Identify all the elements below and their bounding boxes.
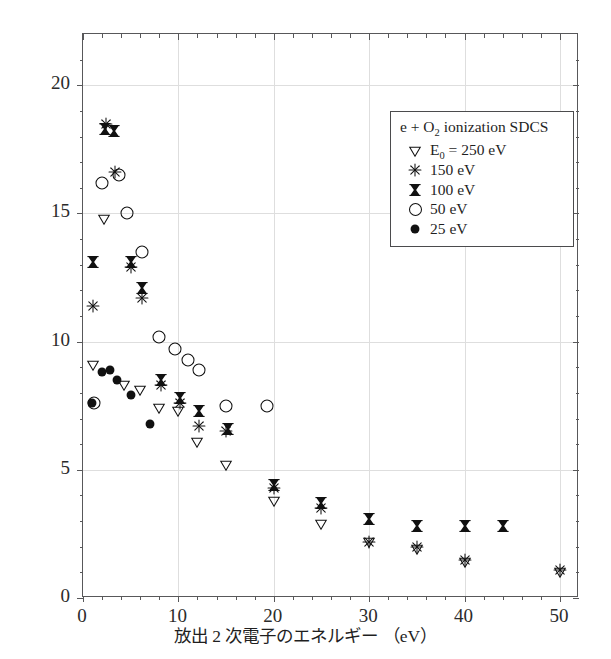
x-axis-minor-tick bbox=[102, 34, 103, 38]
y-axis-minor-tick bbox=[80, 239, 84, 240]
x-axis-minor-tick bbox=[159, 596, 160, 600]
data-point-hourglass bbox=[86, 255, 100, 269]
x-axis-minor-tick bbox=[331, 34, 332, 38]
data-point-open-circle bbox=[219, 398, 234, 413]
x-axis-minor-tick bbox=[445, 34, 446, 38]
y-axis-minor-tick bbox=[80, 111, 84, 112]
x-axis-minor-tick bbox=[236, 596, 237, 600]
data-point-open-down-triangle bbox=[362, 535, 376, 549]
y-axis-minor-tick bbox=[80, 162, 84, 163]
data-point-hourglass bbox=[192, 404, 206, 418]
y-axis-tick bbox=[573, 470, 579, 471]
x-axis-minor-tick bbox=[255, 34, 256, 38]
data-point-open-circle bbox=[260, 398, 275, 413]
y-axis-minor-tick bbox=[576, 137, 580, 138]
data-point-hourglass bbox=[267, 478, 281, 492]
x-axis-minor-tick bbox=[350, 596, 351, 600]
x-axis-tick bbox=[465, 596, 466, 602]
x-axis-minor-tick bbox=[541, 596, 542, 600]
data-point-hourglass bbox=[496, 519, 510, 533]
data-point-open-down-triangle bbox=[410, 542, 424, 556]
x-axis-minor-tick bbox=[503, 596, 504, 600]
y-axis-minor-tick bbox=[576, 495, 580, 496]
data-point-asterisk bbox=[86, 299, 100, 313]
legend-row: 25 eV bbox=[400, 219, 565, 239]
y-axis-minor-tick bbox=[576, 239, 580, 240]
x-axis-minor-tick bbox=[255, 596, 256, 600]
x-axis-minor-tick bbox=[407, 34, 408, 38]
y-axis-minor-tick bbox=[80, 60, 84, 61]
x-axis-minor-tick bbox=[102, 596, 103, 600]
legend-symbol-open-circle bbox=[400, 202, 430, 217]
y-axis-minor-tick bbox=[576, 419, 580, 420]
x-axis-tick-label: 30 bbox=[359, 605, 378, 627]
x-axis-tick bbox=[560, 34, 561, 40]
x-axis-tick-label: 20 bbox=[263, 605, 282, 627]
data-point-hourglass bbox=[173, 391, 187, 405]
y-axis-minor-tick bbox=[576, 367, 580, 368]
y-axis-minor-tick bbox=[80, 188, 84, 189]
x-axis-minor-tick bbox=[121, 34, 122, 38]
data-point-hourglass bbox=[362, 512, 376, 526]
x-axis-minor-tick bbox=[541, 34, 542, 38]
y-axis-minor-tick bbox=[80, 265, 84, 266]
legend-label: E0 = 250 eV bbox=[430, 141, 506, 161]
y-axis-minor-tick bbox=[576, 60, 580, 61]
legend-label: 150 eV bbox=[430, 161, 475, 179]
y-axis-tick bbox=[77, 342, 83, 343]
x-axis-minor-tick bbox=[522, 596, 523, 600]
y-axis-tick-label: 10 bbox=[51, 329, 70, 351]
x-axis-minor-tick bbox=[293, 596, 294, 600]
x-axis-minor-tick bbox=[445, 596, 446, 600]
y-axis-minor-tick bbox=[80, 521, 84, 522]
y-axis-minor-tick bbox=[80, 290, 84, 291]
legend-title-main: e + O bbox=[400, 118, 435, 135]
y-axis-tick bbox=[573, 342, 579, 343]
x-axis-tick bbox=[83, 34, 84, 40]
data-point-filled-circle bbox=[111, 374, 123, 386]
x-axis-minor-tick bbox=[312, 596, 313, 600]
data-point-hourglass bbox=[107, 124, 121, 138]
y-axis-minor-tick bbox=[80, 495, 84, 496]
x-axis-tick-label: 40 bbox=[454, 605, 473, 627]
legend-row: E0 = 250 eV bbox=[400, 141, 565, 161]
y-axis-minor-tick bbox=[576, 162, 580, 163]
data-point-open-down-triangle bbox=[152, 401, 166, 415]
data-point-open-circle bbox=[95, 175, 110, 190]
y-axis-minor-tick bbox=[80, 444, 84, 445]
y-axis-tick-label: 15 bbox=[51, 200, 70, 222]
data-point-open-down-triangle bbox=[190, 435, 204, 449]
x-axis-minor-tick bbox=[426, 34, 427, 38]
y-axis-minor-tick bbox=[576, 290, 580, 291]
legend-symbol-asterisk bbox=[400, 163, 430, 177]
legend-box: e + O2 ionization SDCS E0 = 250 eV 150 e… bbox=[390, 111, 574, 247]
gridline-horizontal bbox=[83, 470, 577, 471]
y-axis-minor-tick bbox=[80, 393, 84, 394]
gridline-vertical bbox=[274, 34, 275, 596]
x-axis-tick bbox=[178, 596, 179, 602]
y-axis-minor-tick bbox=[80, 137, 84, 138]
legend-symbol-hourglass bbox=[400, 183, 430, 197]
legend-title-rest: ionization SDCS bbox=[440, 118, 549, 135]
y-axis-tick-label: 5 bbox=[61, 457, 71, 479]
data-point-open-circle bbox=[152, 329, 167, 344]
data-point-open-down-triangle bbox=[97, 212, 111, 226]
data-point-hourglass bbox=[154, 373, 168, 387]
y-axis-minor-tick bbox=[80, 367, 84, 368]
data-point-open-down-triangle bbox=[171, 404, 185, 418]
x-axis-minor-tick bbox=[484, 596, 485, 600]
x-axis-minor-tick bbox=[350, 34, 351, 38]
y-axis-tick-label: 0 bbox=[61, 585, 71, 607]
legend-rows: E0 = 250 eV 150 eV 100 eV 50 eV 25 eV bbox=[400, 141, 565, 239]
x-axis-minor-tick bbox=[293, 34, 294, 38]
x-axis-minor-tick bbox=[426, 596, 427, 600]
x-axis-minor-tick bbox=[159, 34, 160, 38]
y-axis-minor-tick bbox=[576, 521, 580, 522]
gridline-vertical bbox=[178, 34, 179, 596]
y-axis-minor-tick bbox=[576, 111, 580, 112]
y-axis-tick bbox=[573, 598, 579, 599]
data-point-hourglass bbox=[124, 255, 138, 269]
x-axis-tick bbox=[560, 596, 561, 602]
legend-label: 100 eV bbox=[430, 181, 475, 199]
y-axis-minor-tick bbox=[576, 265, 580, 266]
